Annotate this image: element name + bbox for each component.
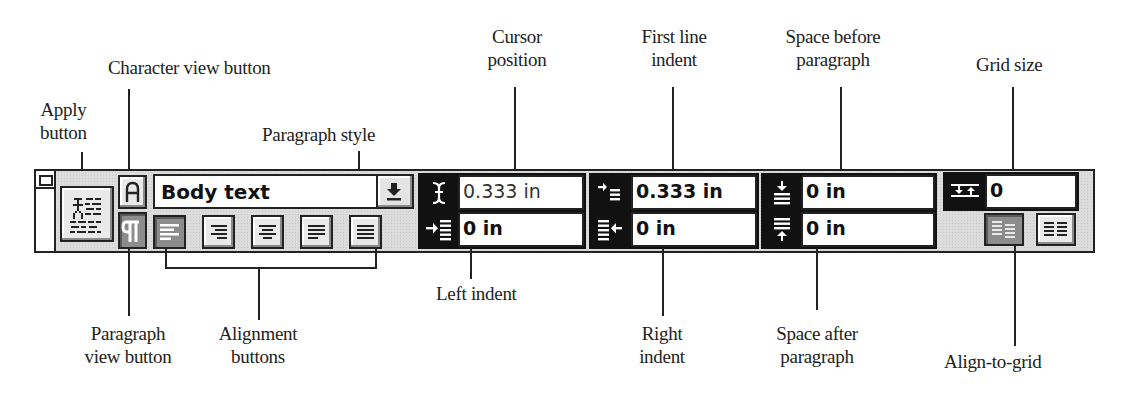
left-indent-field[interactable]: 0 in: [458, 212, 584, 247]
align-to-grid-off-button[interactable]: [984, 213, 1024, 246]
justify-icon: [302, 217, 331, 247]
leader-grid-size: [1012, 87, 1014, 173]
down-arrow-icon: [378, 176, 410, 207]
callout-space-after-paragraph: Space after paragraph: [764, 322, 870, 368]
leader-cursor-position: [514, 87, 516, 175]
paragraph-style-value: Body text: [161, 177, 270, 207]
alignment-bracket-left: [165, 248, 167, 269]
character-view-button[interactable]: [118, 175, 147, 209]
leader-align-to-grid: [1014, 246, 1016, 346]
force-justify-icon: [351, 217, 380, 247]
space-before-icon: [763, 175, 801, 211]
callout-left-indent: Left indent: [436, 282, 517, 305]
apply-button[interactable]: [60, 186, 114, 242]
align-right-button[interactable]: [202, 215, 235, 249]
alignment-bracket-bar: [165, 267, 377, 269]
cursor-position-icon: [420, 175, 458, 211]
align-to-grid-on-button[interactable]: [1036, 213, 1076, 246]
character-a-icon: [120, 177, 145, 207]
force-justify-button[interactable]: [349, 215, 382, 249]
callout-align-to-grid: Align-to-grid: [944, 350, 1041, 373]
leader-first-line-indent: [672, 87, 674, 175]
paragraph-style-dropdown-button[interactable]: [376, 176, 412, 207]
align-to-grid-off-icon: [986, 215, 1022, 244]
callout-grid-size: Grid size: [976, 53, 1042, 76]
pilcrow-icon: [120, 214, 145, 247]
right-indent-icon: [591, 211, 629, 247]
callout-paragraph-style: Paragraph style: [262, 123, 375, 146]
alignment-bracket-right: [375, 248, 377, 269]
grid-size-field[interactable]: 0: [985, 174, 1077, 209]
paragraph-view-button[interactable]: [118, 212, 147, 249]
first-line-indent-field[interactable]: 0.333 in: [631, 175, 757, 210]
leader-right-indent: [662, 248, 664, 316]
callout-alignment-buttons: Alignment buttons: [200, 322, 316, 368]
right-indent-field[interactable]: 0 in: [631, 212, 757, 247]
callout-apply-button: Apply button: [40, 98, 87, 144]
paragraph-spacing-group: 0 in 0 in: [761, 173, 937, 249]
first-right-indent-group: 0.333 in 0 in: [589, 173, 759, 249]
callout-paragraph-view-button: Paragraph view button: [66, 322, 190, 368]
callout-space-before-paragraph: Space before paragraph: [780, 25, 886, 71]
title-bar-divider: [36, 187, 54, 189]
space-after-field[interactable]: 0 in: [801, 212, 935, 247]
align-right-icon: [204, 217, 233, 247]
align-left-icon: [155, 217, 184, 247]
grid-size-icon: [945, 174, 985, 209]
callout-character-view-button: Character view button: [108, 56, 271, 79]
cursor-indent-group: 0.333 in 0 in: [418, 173, 586, 249]
palette-title-bar[interactable]: [36, 171, 56, 251]
close-box-icon[interactable]: [39, 175, 53, 186]
paragraph-palette: Body text 0.333 in: [34, 169, 1095, 253]
justify-button[interactable]: [300, 215, 333, 249]
apply-icon: [62, 188, 112, 240]
leader-paragraph-view-button: [128, 248, 130, 316]
grid-size-group: 0: [943, 172, 1079, 211]
leader-space-after-paragraph: [816, 248, 818, 310]
space-before-field[interactable]: 0 in: [801, 175, 935, 210]
space-after-icon: [763, 211, 801, 247]
first-line-indent-icon: [591, 175, 629, 211]
align-left-button[interactable]: [153, 215, 186, 249]
paragraph-style-select[interactable]: Body text: [153, 174, 414, 209]
align-center-icon: [253, 217, 282, 247]
leader-alignment-buttons: [258, 268, 260, 320]
leader-left-indent: [470, 248, 472, 279]
leader-space-before-paragraph: [840, 87, 842, 175]
callout-cursor-position: Cursor position: [476, 25, 558, 71]
cursor-position-field[interactable]: 0.333 in: [458, 175, 584, 210]
callout-first-line-indent: First line indent: [632, 25, 716, 71]
callout-right-indent: Right indent: [622, 322, 702, 368]
align-center-button[interactable]: [251, 215, 284, 249]
left-indent-icon: [420, 211, 458, 247]
leader-character-view-button: [128, 89, 130, 175]
align-to-grid-on-icon: [1038, 215, 1074, 244]
